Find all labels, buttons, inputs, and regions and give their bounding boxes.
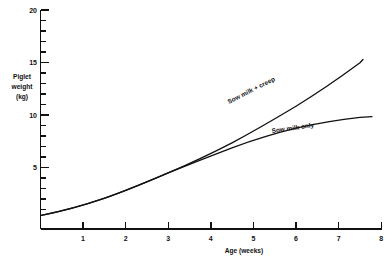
x-tick-label-1: 1: [81, 235, 85, 242]
x-tick-label-6: 6: [294, 235, 298, 242]
x-axis-major-ticks: [83, 222, 381, 229]
y-axis-title-line3: (kg): [16, 93, 28, 101]
series-label-sow-milk-only: Sow milk only: [271, 121, 315, 135]
y-tick-label-5: 5: [33, 164, 37, 171]
y-axis-title-line2: weight: [11, 83, 34, 91]
y-tick-label-15: 15: [29, 59, 37, 66]
chart-container: 20 15 10 5 1 2 3 4 5 6 7 8 Piglet weight…: [0, 0, 388, 263]
x-tick-label-7: 7: [337, 235, 341, 242]
x-tick-label-2: 2: [124, 235, 128, 242]
y-axis-title-line1: Piglet: [13, 73, 32, 81]
y-tick-label-20: 20: [29, 7, 37, 14]
x-tick-label-5: 5: [251, 235, 255, 242]
series-line-sow-milk-plus-creep: [41, 60, 363, 216]
series-label-sow-milk-plus-creep: Sow milk + creep: [226, 75, 276, 106]
x-axis-title: Age (weeks): [225, 247, 263, 255]
x-tick-label-4: 4: [209, 235, 213, 242]
x-tick-label-8: 8: [379, 235, 383, 242]
y-axis-major-ticks: [41, 10, 49, 168]
series-line-sow-milk-only: [41, 117, 372, 216]
x-tick-label-3: 3: [166, 235, 170, 242]
piglet-growth-chart: 20 15 10 5 1 2 3 4 5 6 7 8 Piglet weight…: [0, 0, 388, 263]
y-tick-label-10: 10: [29, 112, 37, 119]
